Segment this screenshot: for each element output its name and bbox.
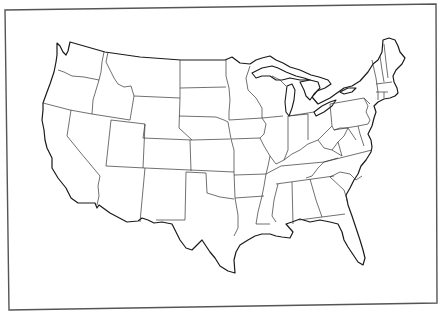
us-outline-map	[0, 0, 441, 313]
